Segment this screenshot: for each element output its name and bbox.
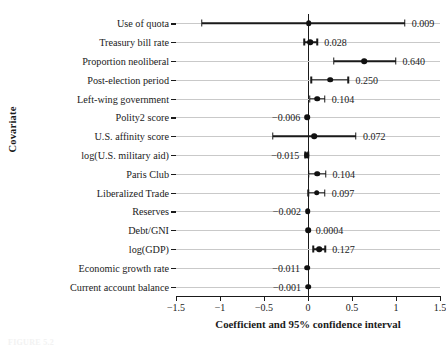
covariate-label: Reserves	[6, 206, 176, 217]
x-axis-tick	[440, 296, 441, 301]
covariate-label: Paris Club	[6, 168, 176, 179]
confidence-interval-cap	[308, 170, 310, 177]
covariate-label: U.S. affinity score	[6, 131, 176, 142]
coefficient-point	[304, 152, 310, 158]
coefficient-value-label: 0.127	[332, 244, 355, 255]
covariate-label: Economic growth rate	[6, 262, 176, 273]
confidence-interval-bar	[202, 23, 405, 25]
confidence-interval-cap	[333, 58, 335, 65]
coefficient-point	[308, 39, 314, 45]
confidence-interval-cap	[310, 76, 312, 83]
x-axis-tick	[308, 296, 309, 301]
confidence-interval-cap	[308, 189, 310, 196]
confidence-interval-cap	[395, 58, 397, 65]
x-axis-tick-label: 0	[306, 302, 311, 313]
coefficient-value-label: −0.001	[273, 281, 301, 292]
x-axis-tick-label: −1	[215, 302, 226, 313]
x-axis-tick-label: −1.5	[167, 302, 185, 313]
confidence-interval-cap	[404, 20, 406, 27]
covariate-label: Left-wing government	[6, 93, 176, 104]
covariate-label: Liberalized Trade	[6, 187, 176, 198]
confidence-interval-cap	[304, 39, 306, 46]
coefficient-point	[305, 284, 311, 290]
confidence-interval-cap	[309, 95, 311, 102]
coefficient-point	[316, 246, 322, 252]
x-axis-tick-label: 1	[394, 302, 399, 313]
covariate-label: Use of quota	[6, 18, 176, 29]
coefficient-value-label: −0.015	[271, 150, 299, 161]
coefficient-value-label: 0.028	[324, 37, 347, 48]
coefficient-value-label: 0.104	[333, 168, 356, 179]
gridline	[176, 99, 440, 100]
coefficient-point	[306, 21, 312, 27]
covariate-label: log(U.S. military aid)	[6, 150, 176, 161]
covariate-label: Polity2 score	[6, 112, 176, 123]
confidence-interval-cap	[324, 189, 326, 196]
covariate-label: Debt/GNI	[6, 225, 176, 236]
coefficient-point	[314, 171, 320, 177]
gridline	[176, 80, 440, 81]
x-axis-tick	[352, 296, 353, 301]
covariate-label: Treasury bill rate	[6, 37, 176, 48]
coefficient-value-label: 0.250	[355, 74, 378, 85]
gridline	[176, 249, 440, 250]
coefficient-point	[305, 209, 311, 215]
x-axis-tick	[396, 296, 397, 301]
plot-area: −1.5−1−0.500.511.50.0090.0280.6400.2500.…	[176, 14, 440, 296]
coefficient-point	[314, 96, 320, 102]
coefficient-value-label: 0.640	[403, 56, 426, 67]
confidence-interval-cap	[272, 133, 274, 140]
coefficient-value-label: 0.072	[363, 131, 386, 142]
coefficient-point	[305, 115, 311, 121]
confidence-interval-cap	[324, 246, 326, 253]
x-axis-tick	[176, 296, 177, 301]
confidence-interval-cap	[325, 170, 327, 177]
covariate-label: Proportion neoliberal	[6, 56, 176, 67]
x-axis-tick-label: −0.5	[255, 302, 273, 313]
gridline	[176, 61, 440, 62]
coefficient-point	[314, 190, 320, 196]
coefficient-value-label: 0.104	[332, 93, 355, 104]
coefficient-point	[312, 133, 318, 139]
coefficient-point	[362, 58, 368, 64]
confidence-interval-cap	[324, 95, 326, 102]
coefficient-value-label: −0.002	[273, 206, 301, 217]
x-axis-title: Coefficient and 95% confidence interval	[176, 318, 440, 330]
confidence-interval-cap	[355, 133, 357, 140]
x-axis-tick-label: 0.5	[346, 302, 359, 313]
x-axis-tick	[220, 296, 221, 301]
coefficient-point	[327, 77, 333, 83]
confidence-interval-cap	[313, 246, 315, 253]
covariate-label: Post-election period	[6, 74, 176, 85]
coefficient-value-label: −0.006	[272, 112, 300, 123]
covariate-label: log(GDP)	[6, 244, 176, 255]
covariate-label: Current account balance	[6, 281, 176, 292]
x-axis-tick-label: 1.5	[434, 302, 446, 313]
confidence-interval-cap	[316, 39, 318, 46]
x-axis-tick	[264, 296, 265, 301]
coefficient-point	[304, 265, 310, 271]
coefficient-value-label: 0.097	[332, 187, 355, 198]
confidence-interval-cap	[348, 76, 350, 83]
figure-caption: FIGURE 5.2	[8, 338, 54, 347]
confidence-interval-cap	[201, 20, 203, 27]
coefficient-point	[305, 227, 311, 233]
coefficient-value-label: 0.0004	[316, 225, 344, 236]
coefficient-value-label: −0.011	[272, 262, 300, 273]
coefficient-value-label: 0.009	[412, 18, 435, 29]
